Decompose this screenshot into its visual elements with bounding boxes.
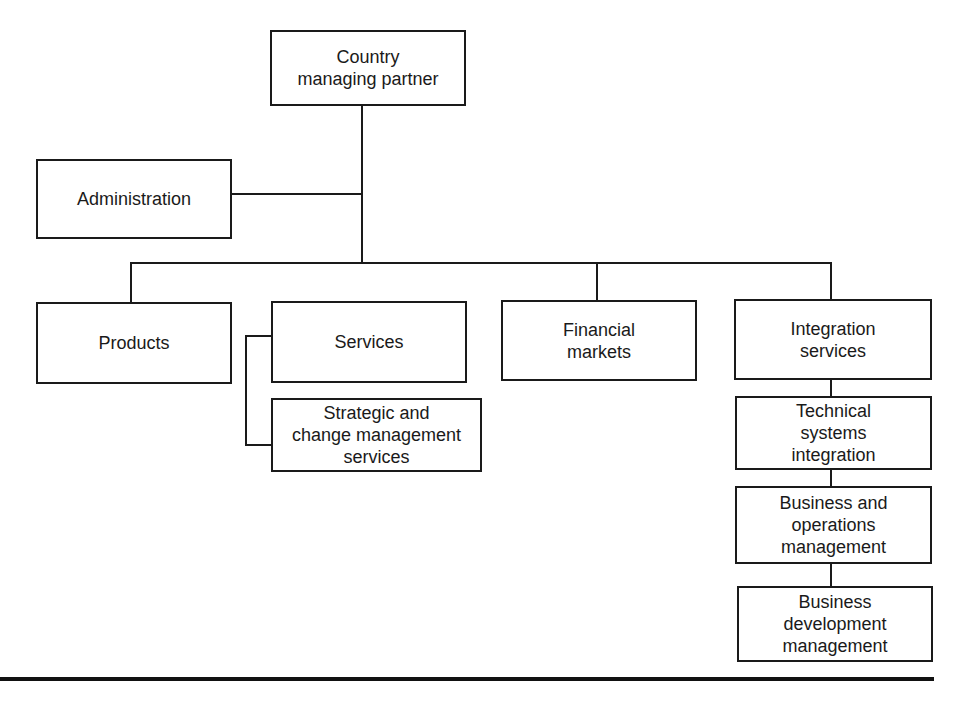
- bottom-rule: [0, 677, 934, 681]
- node-label: Administration: [77, 188, 191, 210]
- node-label: Country managing partner: [297, 46, 438, 90]
- node-label: Strategic and change management services: [292, 402, 461, 468]
- connector-top-bus: [130, 262, 831, 264]
- node-technical-systems-integration: Technical systems integration: [735, 396, 932, 470]
- connector-services-bracket: [245, 335, 247, 445]
- node-products: Products: [36, 302, 232, 384]
- node-label: Integration services: [790, 318, 875, 362]
- node-label: Technical systems integration: [791, 400, 875, 466]
- node-business-development-management: Business development management: [737, 586, 933, 662]
- node-services: Services: [271, 301, 467, 383]
- node-label: Business development management: [782, 591, 887, 657]
- node-business-operations-management: Business and operations management: [735, 486, 932, 564]
- node-label: Business and operations management: [779, 492, 887, 558]
- connector-admin: [232, 193, 362, 195]
- connector-services-bracket-bottom: [245, 444, 272, 446]
- connector-products: [130, 262, 132, 303]
- node-strategic-change-management: Strategic and change management services: [271, 398, 482, 472]
- connector-integration-chain-3: [830, 562, 832, 588]
- node-label: Products: [98, 332, 169, 354]
- connector-integration-chain-2: [830, 468, 832, 488]
- connector-integration: [830, 262, 832, 301]
- connector-integration-chain-1: [830, 378, 832, 398]
- node-country-managing-partner: Country managing partner: [270, 30, 466, 106]
- connector-country-trunk: [361, 105, 363, 264]
- connector-services-bracket-top: [245, 335, 272, 337]
- node-label: Financial markets: [563, 319, 635, 363]
- connector-financial: [596, 262, 598, 302]
- node-financial-markets: Financial markets: [501, 300, 697, 381]
- node-label: Services: [334, 331, 403, 353]
- node-integration-services: Integration services: [734, 299, 932, 380]
- node-administration: Administration: [36, 159, 232, 239]
